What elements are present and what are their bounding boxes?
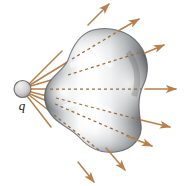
field-line-8-far <box>78 162 94 182</box>
electric-field-figure: q <box>0 0 187 186</box>
figure-canvas: q <box>0 0 187 186</box>
point-charge-sphere <box>14 81 31 98</box>
field-line-5-far <box>141 120 170 127</box>
field-line-2-far <box>118 19 139 31</box>
field-line-3-far <box>145 45 164 53</box>
field-line-1-far <box>88 4 109 25</box>
charge-label: q <box>19 98 26 113</box>
